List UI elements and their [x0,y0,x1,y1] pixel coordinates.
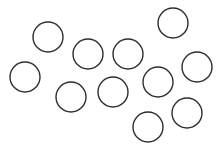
circle-1 [33,22,63,52]
circle-3 [73,39,103,69]
circles-drawing [0,0,222,149]
circles-canvas [0,0,222,149]
circle-8 [56,82,86,112]
circle-11 [133,112,163,142]
circle-2 [158,8,188,38]
circle-10 [172,98,202,128]
circle-7 [143,67,173,97]
circle-6 [182,52,212,82]
circle-4 [113,39,143,69]
circle-5 [10,62,40,92]
circle-9 [98,77,128,107]
